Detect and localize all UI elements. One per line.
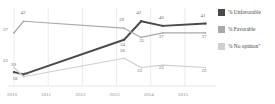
x-axis-tick-label: 2014 bbox=[144, 92, 154, 97]
legend-swatch-icon bbox=[218, 43, 225, 50]
data-point-label: 26 bbox=[120, 48, 125, 53]
x-axis-tick-label: 2012 bbox=[75, 92, 85, 97]
data-point-label: 20 bbox=[11, 62, 16, 67]
legend-swatch-icon bbox=[218, 9, 225, 16]
data-point-label: 18 bbox=[13, 76, 18, 81]
chart-legend: % Unfavorable % Favorable % No opinion" bbox=[218, 9, 275, 60]
x-axis-tick-label: 2010 bbox=[7, 92, 17, 97]
data-point-label: 41 bbox=[200, 13, 205, 18]
data-point-label: 42 bbox=[136, 10, 141, 15]
data-point-label: 34 bbox=[120, 42, 125, 47]
data-point-label: 42 bbox=[21, 10, 26, 15]
x-axis-tick-label: 2015 bbox=[178, 92, 188, 97]
data-point-label: 22 bbox=[201, 68, 206, 73]
data-point-label: 22 bbox=[3, 58, 8, 63]
data-point-label: 37 bbox=[201, 34, 206, 39]
data-point-label: 37 bbox=[3, 27, 8, 32]
legend-item-label: % Unfavorable bbox=[228, 9, 261, 16]
line-chart: 2010201120122013201420152019344240413742… bbox=[0, 0, 275, 104]
legend-item-no-opinion[interactable]: % No opinion" bbox=[218, 43, 275, 51]
data-point-label: 40 bbox=[159, 15, 164, 20]
legend-item-unfavorable[interactable]: % Unfavorable bbox=[218, 9, 275, 17]
legend-item-favorable[interactable]: % Favorable bbox=[218, 26, 275, 34]
data-point-label: 35 bbox=[139, 38, 144, 43]
legend-item-label: % Favorable bbox=[228, 26, 255, 33]
chart-canvas bbox=[0, 0, 218, 104]
data-point-label: 23 bbox=[159, 65, 164, 70]
legend-swatch-icon bbox=[218, 26, 225, 33]
data-point-label: 39 bbox=[119, 17, 124, 22]
legend-item-label: % No opinion" bbox=[228, 43, 260, 50]
data-point-label: 22 bbox=[137, 68, 142, 73]
x-axis-tick-label: 2013 bbox=[110, 92, 120, 97]
x-axis-tick-label: 2011 bbox=[41, 92, 51, 97]
plot-area: 2010201120122013201420152019344240413742… bbox=[0, 0, 218, 104]
data-point-label: 19 bbox=[24, 71, 29, 76]
data-point-label: 37 bbox=[159, 34, 164, 39]
